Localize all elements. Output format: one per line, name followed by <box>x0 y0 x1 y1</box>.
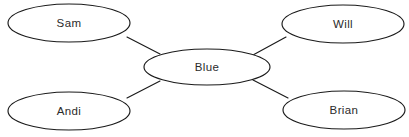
node-brian[interactable]: Brian <box>283 91 405 129</box>
concept-map-diagram: Sam Will Blue Andi Brian <box>0 0 409 137</box>
edge-blue-brian <box>253 80 288 98</box>
node-sam-label: Sam <box>57 17 82 29</box>
node-andi-label: Andi <box>57 105 82 117</box>
node-brian-label: Brian <box>330 104 359 116</box>
node-will-label: Will <box>333 18 353 30</box>
node-will[interactable]: Will <box>282 5 404 43</box>
edge-blue-andi <box>127 81 160 98</box>
diagram-surface: Sam Will Blue Andi Brian <box>0 0 409 137</box>
edge-blue-sam <box>127 37 160 54</box>
node-blue-label: Blue <box>195 61 220 73</box>
node-blue[interactable]: Blue <box>144 49 270 85</box>
edge-blue-will <box>253 37 286 55</box>
node-sam[interactable]: Sam <box>8 4 130 42</box>
node-andi[interactable]: Andi <box>8 92 130 130</box>
